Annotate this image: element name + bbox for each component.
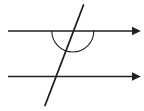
geometry-diagram: [0, 0, 144, 111]
diagram-background: [0, 0, 144, 111]
geometry-canvas: [0, 0, 144, 111]
